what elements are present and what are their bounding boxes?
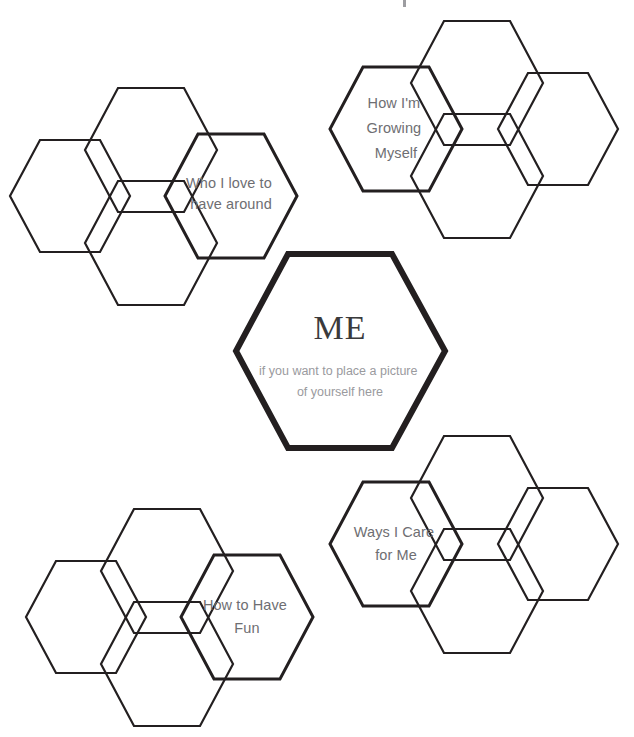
label-line-1: Who I love to: [186, 175, 272, 191]
cluster-ways-i-care-for-me[interactable]: Ways I Care for Me: [330, 436, 618, 653]
main-hexagon-ways-i-care[interactable]: [330, 482, 462, 606]
label-line-3: Myself: [375, 145, 418, 161]
satellite-left-hexagon[interactable]: [10, 140, 130, 252]
label-line-2: for Me: [375, 547, 417, 563]
me-title: ME: [314, 309, 367, 346]
cluster-how-im-growing-myself[interactable]: How I'm Growing Myself: [330, 21, 618, 238]
satellite-right-hexagon[interactable]: [498, 488, 618, 600]
center-me-group[interactable]: ME if you want to place a picture of you…: [236, 254, 445, 448]
label-line-2: Fun: [234, 620, 259, 636]
satellite-left-hexagon[interactable]: [26, 561, 146, 673]
me-subtitle-line-1: if you want to place a picture: [259, 364, 417, 378]
cluster-label-ways-i-care: Ways I Care for Me: [354, 524, 438, 563]
label-line-1: Ways I Care: [354, 524, 434, 540]
main-hexagon-how-to-have-fun[interactable]: [181, 555, 313, 679]
cluster-label-how-im-growing: How I'm Growing Myself: [367, 95, 426, 161]
me-subtitle: if you want to place a picture of yourse…: [259, 364, 421, 399]
hexagon-diagram: Who I love to have around How I'm Growin…: [0, 0, 634, 737]
cluster-who-i-love-to-have-around[interactable]: Who I love to have around: [10, 88, 297, 305]
me-subtitle-line-2: of yourself here: [297, 385, 383, 399]
label-line-2: have around: [190, 196, 272, 212]
label-line-1: How to Have: [203, 597, 287, 613]
satellite-right-hexagon[interactable]: [498, 73, 618, 185]
cluster-how-to-have-fun[interactable]: How to Have Fun: [26, 509, 313, 726]
label-line-1: How I'm: [368, 95, 421, 111]
label-line-2: Growing: [367, 120, 422, 136]
me-hexagon[interactable]: [236, 254, 445, 448]
cluster-label-who-i-love: Who I love to have around: [186, 175, 276, 212]
